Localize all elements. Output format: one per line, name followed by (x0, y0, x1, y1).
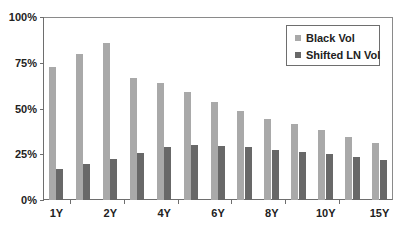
legend-swatch-icon (295, 52, 301, 58)
y-tick-mark (40, 17, 44, 18)
bar-black-vol (291, 124, 298, 200)
y-tick-label: 50% (0, 103, 37, 115)
bar-shifted-ln-vol (110, 159, 117, 200)
legend: Black Vol Shifted LN Vol (286, 25, 380, 66)
y-tick-mark (40, 109, 44, 110)
bar-black-vol (318, 130, 325, 200)
bar-shifted-ln-vol (191, 145, 198, 200)
y-tick-label: 0% (0, 194, 37, 206)
legend-label: Shifted LN Vol (306, 49, 380, 61)
bar-shifted-ln-vol (299, 152, 306, 200)
bar-black-vol (237, 111, 244, 200)
y-tick-label: 75% (0, 57, 37, 69)
bar-shifted-ln-vol (353, 157, 360, 200)
bar-black-vol (264, 119, 271, 200)
legend-item-black-vol: Black Vol (295, 32, 355, 44)
bar-shifted-ln-vol (380, 160, 387, 200)
x-tick-label: 4Y (149, 207, 179, 219)
legend-item-shifted-ln-vol: Shifted LN Vol (295, 49, 380, 61)
y-tick-label: 25% (0, 148, 37, 160)
y-tick-mark (40, 63, 44, 64)
bar-black-vol (76, 54, 83, 200)
x-tick-label: 10Y (311, 207, 341, 219)
bar-black-vol (184, 92, 191, 200)
y-tick-mark (40, 200, 44, 201)
x-tick-label: 15Y (365, 207, 395, 219)
bar-shifted-ln-vol (164, 147, 171, 200)
y-tick-label: 100% (0, 11, 37, 23)
bar-shifted-ln-vol (218, 146, 225, 200)
x-tick-label: 1Y (41, 207, 71, 219)
x-tick-mark (124, 200, 125, 204)
y-tick-mark (40, 154, 44, 155)
bar-shifted-ln-vol (83, 164, 90, 200)
bar-shifted-ln-vol (56, 169, 63, 200)
x-tick-mark (231, 200, 232, 204)
bar-black-vol (211, 102, 218, 200)
bar-black-vol (49, 67, 56, 200)
x-tick-label: 8Y (257, 207, 287, 219)
bar-black-vol (345, 137, 352, 200)
bar-black-vol (157, 83, 164, 200)
bar-black-vol (130, 78, 137, 200)
bar-chart: 0%25%50%75%100% 1Y2Y4Y6Y8Y10Y15Y Black V… (0, 0, 405, 229)
legend-label: Black Vol (306, 32, 355, 44)
legend-swatch-icon (295, 35, 301, 41)
x-tick-mark (285, 200, 286, 204)
bar-black-vol (103, 43, 110, 200)
x-tick-mark (339, 200, 340, 204)
x-tick-label: 6Y (203, 207, 233, 219)
x-tick-label: 2Y (95, 207, 125, 219)
x-tick-mark (70, 200, 71, 204)
bar-shifted-ln-vol (245, 147, 252, 200)
bar-black-vol (372, 143, 379, 200)
bar-shifted-ln-vol (326, 154, 333, 200)
x-tick-mark (178, 200, 179, 204)
bar-shifted-ln-vol (137, 153, 144, 200)
bar-shifted-ln-vol (272, 150, 279, 201)
